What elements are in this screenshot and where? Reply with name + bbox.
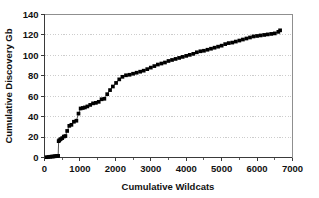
- data-point: [177, 56, 181, 60]
- data-point: [278, 28, 282, 32]
- data-point: [238, 39, 242, 43]
- x-tick-label-0: 0: [42, 163, 47, 174]
- data-point: [252, 35, 256, 39]
- data-point: [108, 88, 112, 92]
- data-point: [142, 69, 146, 73]
- data-point: [195, 50, 199, 54]
- data-point: [167, 59, 171, 63]
- y-tick-label-120: 120: [23, 29, 39, 40]
- y-axis-title: Cumulative Discovery Gb: [3, 28, 14, 143]
- y-tick-label-100: 100: [23, 50, 39, 61]
- data-point: [152, 64, 156, 68]
- x-axis-title: Cumulative Wildcats: [122, 181, 215, 192]
- data-point: [245, 37, 249, 41]
- data-point: [255, 34, 259, 38]
- y-tick-label-80: 80: [28, 70, 39, 81]
- x-tick-label-3000: 3000: [140, 163, 161, 174]
- data-point: [191, 52, 195, 56]
- x-tick-label-7000: 7000: [282, 163, 303, 174]
- data-point: [199, 49, 203, 53]
- data-point: [188, 53, 192, 57]
- data-point: [206, 48, 210, 52]
- data-point: [149, 66, 153, 70]
- data-point: [145, 67, 149, 71]
- data-point: [103, 97, 107, 101]
- data-point: [259, 34, 263, 38]
- data-point: [216, 45, 220, 49]
- y-tick-label-60: 60: [28, 91, 39, 102]
- data-point: [234, 40, 238, 44]
- data-point: [241, 38, 245, 42]
- data-point: [138, 70, 142, 74]
- x-tick-label-1000: 1000: [69, 163, 90, 174]
- chart-figure: 020406080100120140 010002000300040005000…: [0, 0, 319, 198]
- data-point: [131, 72, 135, 76]
- data-point: [220, 44, 224, 48]
- y-tick-label-40: 40: [28, 111, 39, 122]
- x-tick-label-6000: 6000: [247, 163, 268, 174]
- x-tick-label-4000: 4000: [176, 163, 197, 174]
- data-point: [163, 61, 167, 65]
- cumulative-discovery-chart: 020406080100120140 010002000300040005000…: [0, 0, 319, 198]
- data-point: [209, 47, 213, 51]
- data-point: [114, 81, 118, 85]
- data-point: [135, 71, 139, 75]
- data-point: [174, 57, 178, 61]
- data-point: [111, 85, 115, 89]
- data-point: [117, 78, 121, 82]
- data-point: [156, 63, 160, 67]
- y-tick-label-20: 20: [28, 131, 39, 142]
- data-point: [230, 41, 234, 45]
- data-point: [248, 36, 252, 40]
- data-point: [128, 73, 132, 77]
- data-point: [170, 58, 174, 62]
- data-point: [213, 46, 217, 50]
- y-tick-label-0: 0: [33, 152, 38, 163]
- x-tick-label-5000: 5000: [211, 163, 232, 174]
- y-tick-label-140: 140: [23, 9, 39, 20]
- data-point: [223, 42, 227, 46]
- data-point: [75, 119, 79, 123]
- data-point: [262, 33, 266, 37]
- data-point: [121, 75, 125, 79]
- data-point: [273, 32, 277, 36]
- data-point: [105, 92, 109, 96]
- data-point: [266, 33, 270, 37]
- data-point: [202, 49, 206, 53]
- data-point: [181, 55, 185, 59]
- data-point: [56, 154, 60, 158]
- data-point: [160, 62, 164, 66]
- data-point: [77, 112, 81, 116]
- data-point: [269, 32, 273, 36]
- data-point: [124, 73, 128, 77]
- data-point: [64, 134, 68, 138]
- data-point: [227, 41, 231, 45]
- data-point: [184, 54, 188, 58]
- x-tick-label-2000: 2000: [105, 163, 126, 174]
- data-point: [65, 129, 69, 133]
